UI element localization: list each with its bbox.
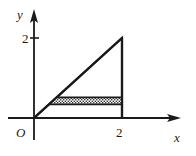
x-axis-label: x (174, 131, 180, 144)
geometry-figure: y x O 2 2 (0, 0, 196, 156)
hatched-strip-fill (34, 98, 122, 105)
y-tick-label-2: 2 (22, 32, 29, 45)
y-axis-label: y (17, 8, 23, 21)
x-tick-label-2: 2 (116, 126, 123, 139)
triangle-hypotenuse (34, 38, 122, 118)
origin-label: O (16, 126, 25, 139)
figure-canvas (0, 0, 196, 156)
hatched-strip (34, 97, 122, 104)
